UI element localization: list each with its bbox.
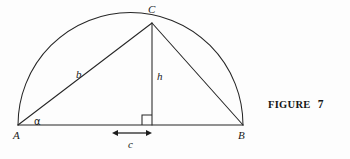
segment-side-cb (152, 23, 243, 125)
figure-container: A B C b h c α FIGURE7 (0, 0, 350, 159)
arrow-head-right-icon (146, 130, 152, 136)
figure-caption-word: FIGURE (268, 99, 311, 110)
geometry-diagram (0, 0, 350, 159)
side-length-label-b: b (76, 69, 82, 80)
offset-length-label-c: c (128, 139, 133, 150)
arrow-head-left-icon (112, 130, 118, 136)
altitude-length-label-h: h (157, 71, 163, 82)
vertex-label-a: A (13, 130, 20, 141)
figure-caption-number: 7 (318, 98, 324, 110)
vertex-label-b: B (238, 130, 245, 141)
segment-side-ac (18, 23, 152, 125)
vertex-label-c: C (148, 4, 155, 15)
semicircle-arc (18, 13, 243, 125)
angle-label-alpha: α (34, 117, 41, 127)
figure-caption: FIGURE7 (268, 98, 324, 110)
dimension-arrow-c (112, 130, 152, 136)
right-angle-marker-icon (142, 115, 152, 125)
